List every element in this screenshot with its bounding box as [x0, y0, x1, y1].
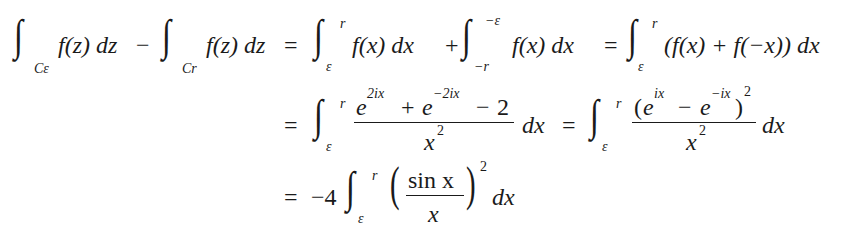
integral-contour-c-epsilon: Cε	[34, 62, 49, 76]
numerator-e: e	[700, 95, 711, 119]
denominator-x: x	[424, 130, 435, 154]
integral-contour-c-r: Cr	[182, 62, 197, 76]
numerator-e: e	[356, 95, 367, 119]
integral-sign: ∫	[590, 94, 599, 138]
big-left-paren: (	[390, 160, 400, 208]
equation-line-3: = −4 ∫ r ε ( sin x x ) 2 dx	[0, 160, 857, 237]
integrand-fx-plus-f-minus-x-dx: (f(x) + f(−x)) dx	[664, 33, 820, 57]
denominator-exponent-2: 2	[437, 124, 444, 138]
denominator-x: x	[686, 130, 697, 154]
differential-dx: dx	[762, 113, 785, 137]
equals-sign: =	[562, 113, 576, 137]
integrand-fx-dx: f(x) dx	[352, 33, 414, 57]
plus-sign: +	[401, 95, 415, 119]
fraction-bar	[354, 122, 514, 123]
lower-limit-epsilon: ε	[326, 140, 332, 154]
fraction-bar	[406, 195, 464, 196]
numerator-exponent-2: 2	[744, 85, 751, 99]
lower-limit-epsilon: ε	[326, 60, 332, 74]
integrand-fz-dz: f(z) dz	[206, 33, 265, 57]
minus-sign: −	[476, 95, 490, 119]
integrand-fz-dz: f(z) dz	[58, 33, 117, 57]
coefficient-minus-4: −4	[311, 185, 337, 209]
integral-sign: ∫	[314, 94, 323, 138]
integral-sign: ∫	[14, 14, 23, 58]
right-paren: )	[735, 95, 743, 119]
integral-sign: ∫	[162, 14, 171, 58]
lower-limit-epsilon: ε	[602, 140, 608, 154]
exponent-2ix: 2ix	[367, 87, 384, 101]
equals-sign: =	[604, 33, 618, 57]
lower-limit-epsilon: ε	[638, 60, 644, 74]
differential-dx: dx	[492, 185, 515, 209]
integral-sign: ∫	[346, 166, 355, 210]
lower-limit-epsilon: ε	[358, 212, 364, 226]
upper-limit-r: r	[372, 169, 377, 183]
numerator-two: 2	[497, 95, 509, 119]
numerator-e: e	[422, 95, 433, 119]
minus-sign: −	[136, 33, 150, 57]
equals-sign: =	[284, 185, 298, 209]
differential-dx: dx	[522, 113, 545, 137]
plus-sign: +	[445, 33, 459, 57]
integral-sign: ∫	[628, 14, 637, 58]
big-right-paren: )	[466, 160, 476, 208]
numerator-e: e	[643, 95, 654, 119]
exponent-minus-ix: −ix	[711, 87, 731, 101]
exponent-minus-2ix: −2ix	[433, 87, 460, 101]
upper-limit-r: r	[652, 17, 657, 31]
equation-line-1: ∫ Cε f(z) dz − ∫ Cr f(z) dz = ∫ r ε f(x)…	[0, 0, 857, 80]
fraction-bar	[632, 122, 756, 123]
denominator-exponent-2: 2	[699, 124, 706, 138]
integrand-fx-dx: f(x) dx	[512, 33, 574, 57]
exponent-ix: ix	[654, 87, 664, 101]
upper-limit-r: r	[616, 97, 621, 111]
equation-line-2: = ∫ r ε e 2ix + e −2ix − 2 x 2 dx = ∫ r …	[0, 80, 857, 160]
denominator-x: x	[428, 202, 439, 226]
left-paren: (	[634, 95, 642, 119]
exponent-2: 2	[480, 160, 487, 174]
upper-limit-minus-epsilon: −ε	[485, 14, 500, 28]
numerator-sin-x: sin x	[408, 168, 454, 192]
minus-sign: −	[678, 95, 692, 119]
lower-limit-minus-r: −r	[474, 60, 489, 74]
integral-sign: ∫	[314, 14, 323, 58]
integral-sign: ∫	[462, 14, 471, 58]
upper-limit-r: r	[340, 17, 345, 31]
equals-sign: =	[284, 113, 298, 137]
equals-sign: =	[284, 33, 298, 57]
upper-limit-r: r	[340, 97, 345, 111]
